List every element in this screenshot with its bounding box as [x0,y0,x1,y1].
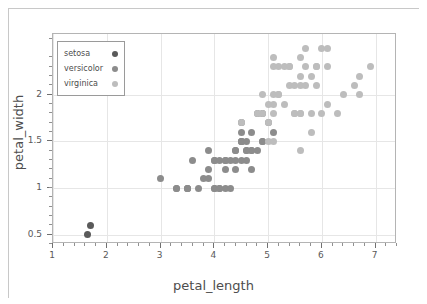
x-tick-minor [278,243,279,246]
data-point-versicolor [232,147,239,154]
x-axis-label: petal_length [0,278,427,293]
y-tick-major [47,94,52,95]
legend-item-virginica[interactable]: virginica [64,76,118,91]
data-point-virginica [334,110,341,117]
data-point-versicolor [195,185,202,192]
data-point-versicolor [254,147,261,154]
gridline-horizontal [53,235,395,236]
gridline-vertical [214,34,215,242]
data-point-versicolor [232,166,239,173]
y-tick-minor [49,131,52,132]
x-tick-label: 2 [91,250,121,260]
x-tick-minor [353,243,354,246]
x-tick-label: 1 [37,250,67,260]
legend-label: virginica [64,79,98,88]
y-tick-minor [49,38,52,39]
data-point-virginica [324,45,331,52]
data-point-versicolor [205,147,212,154]
data-point-virginica [281,101,288,108]
data-point-virginica [308,129,315,136]
x-tick-minor [138,243,139,246]
y-tick-minor [49,66,52,67]
data-point-versicolor [184,185,191,192]
data-point-virginica [238,119,245,126]
x-tick-major [160,243,161,248]
data-point-virginica [270,110,277,117]
y-tick-minor [49,150,52,151]
data-point-versicolor [205,166,212,173]
data-point-virginica [351,82,358,89]
x-tick-minor [170,243,171,246]
y-tick-minor [49,243,52,244]
x-tick-minor [385,243,386,246]
x-tick-major [52,243,53,248]
x-tick-label: 5 [252,250,282,260]
x-tick-major [267,243,268,248]
y-tick-minor [49,196,52,197]
data-point-versicolor [248,129,255,136]
x-tick-major [213,243,214,248]
legend-label: setosa [64,49,90,58]
legend-label: versicolor [64,64,103,73]
data-point-virginica [297,147,304,154]
y-tick-minor [49,159,52,160]
data-point-virginica [313,63,320,70]
data-point-virginica [367,63,374,70]
data-point-versicolor [270,129,277,136]
data-point-versicolor [189,157,196,164]
x-tick-minor [74,243,75,246]
gridline-vertical [376,34,377,242]
legend-marker-icon [112,66,118,72]
x-tick-minor [149,243,150,246]
y-tick-minor [49,215,52,216]
y-tick-minor [49,84,52,85]
data-point-virginica [324,101,331,108]
data-point-virginica [297,54,304,61]
legend-marker-icon [112,81,118,87]
data-point-virginica [318,110,325,117]
x-tick-minor [299,243,300,246]
data-point-virginica [356,91,363,98]
data-point-virginica [286,63,293,70]
data-point-virginica [259,91,266,98]
data-point-virginica [302,63,309,70]
data-point-setosa [87,222,94,229]
data-point-virginica [265,101,272,108]
x-tick-minor [192,243,193,246]
x-tick-minor [203,243,204,246]
y-tick-minor [49,168,52,169]
data-point-virginica [308,110,315,117]
data-point-versicolor [248,166,255,173]
gridline-vertical [161,34,162,242]
data-point-virginica [308,73,315,80]
data-point-virginica [297,110,304,117]
x-tick-minor [396,243,397,246]
y-tick-minor [49,122,52,123]
x-tick-label: 3 [145,250,175,260]
data-point-versicolor [238,129,245,136]
x-tick-minor [256,243,257,246]
x-tick-label: 4 [198,250,228,260]
y-tick-minor [49,56,52,57]
data-point-versicolor [227,185,234,192]
x-tick-minor [310,243,311,246]
legend-item-setosa[interactable]: setosa [64,46,118,61]
x-tick-label: 6 [306,250,336,260]
legend: setosaversicolorvirginica [57,41,125,96]
x-tick-minor [127,243,128,246]
data-point-virginica [302,45,309,52]
data-point-versicolor [222,166,229,173]
data-point-versicolor [173,185,180,192]
x-tick-minor [224,243,225,246]
x-tick-minor [181,243,182,246]
data-point-virginica [324,63,331,70]
data-point-virginica [259,110,266,117]
data-point-setosa [84,231,91,238]
gridline-vertical [322,34,323,242]
x-tick-major [106,243,107,248]
x-tick-major [321,243,322,248]
legend-item-versicolor[interactable]: versicolor [64,61,118,76]
data-point-virginica [313,82,320,89]
x-tick-minor [342,243,343,246]
data-point-versicolor [243,138,250,145]
